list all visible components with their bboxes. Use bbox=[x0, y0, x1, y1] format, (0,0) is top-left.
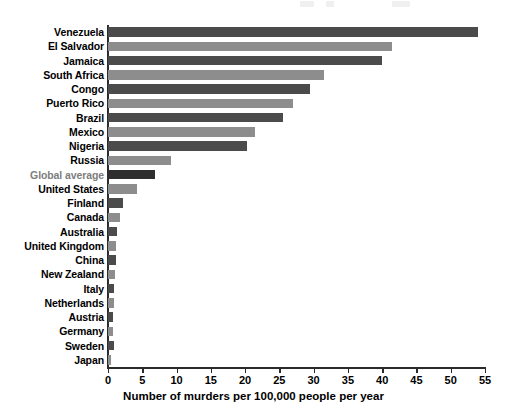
category-label: Finland bbox=[67, 196, 104, 210]
x-tick-label: 55 bbox=[465, 374, 505, 386]
bar bbox=[108, 27, 478, 37]
bar bbox=[108, 156, 171, 166]
bar bbox=[108, 198, 123, 208]
bar-row: China bbox=[0, 253, 507, 267]
bar bbox=[108, 255, 116, 265]
bar-row: Global average bbox=[0, 168, 507, 182]
x-tick bbox=[451, 367, 452, 373]
category-label: United Kingdom bbox=[24, 239, 104, 253]
bar-row: Australia bbox=[0, 225, 507, 239]
bar bbox=[108, 99, 293, 109]
category-label: Japan bbox=[74, 353, 104, 367]
category-label: Global average bbox=[30, 168, 104, 182]
bar-row: Netherlands bbox=[0, 296, 507, 310]
bar-row: Mexico bbox=[0, 125, 507, 139]
bar-row: Congo bbox=[0, 82, 507, 96]
bar bbox=[108, 355, 111, 365]
category-label: Italy bbox=[83, 282, 104, 296]
bar bbox=[108, 241, 116, 251]
category-label: Mexico bbox=[69, 125, 104, 139]
murder-rate-bar-chart: VenezuelaEl SalvadorJamaicaSouth AfricaC… bbox=[0, 0, 507, 412]
bar bbox=[108, 141, 247, 151]
x-axis-line bbox=[107, 367, 486, 369]
x-tick bbox=[314, 367, 315, 373]
bar bbox=[108, 127, 255, 137]
bar bbox=[108, 213, 120, 223]
category-label: Jamaica bbox=[63, 54, 104, 68]
bar-row: Sweden bbox=[0, 339, 507, 353]
bar bbox=[108, 341, 114, 351]
x-tick bbox=[177, 367, 178, 373]
category-label: Australia bbox=[60, 225, 104, 239]
bar bbox=[108, 298, 114, 308]
bar-row: Puerto Rico bbox=[0, 96, 507, 110]
category-label: Germany bbox=[59, 324, 104, 338]
bar bbox=[108, 284, 114, 294]
x-tick bbox=[142, 367, 143, 373]
bar-row: Jamaica bbox=[0, 54, 507, 68]
x-tick bbox=[211, 367, 212, 373]
bar bbox=[108, 170, 155, 180]
bar-row: United Kingdom bbox=[0, 239, 507, 253]
bar-row: Nigeria bbox=[0, 139, 507, 153]
x-tick bbox=[245, 367, 246, 373]
bar bbox=[108, 56, 382, 66]
bar-row: Finland bbox=[0, 196, 507, 210]
category-label: Brazil bbox=[76, 111, 104, 125]
category-label: United States bbox=[38, 182, 104, 196]
bar-row: Russia bbox=[0, 153, 507, 167]
category-label: Puerto Rico bbox=[46, 96, 104, 110]
category-label: Congo bbox=[71, 82, 104, 96]
x-tick bbox=[279, 367, 280, 373]
category-label: El Salvador bbox=[48, 39, 104, 53]
bar-row: Japan bbox=[0, 353, 507, 367]
bar bbox=[108, 42, 392, 52]
bar-row: Germany bbox=[0, 324, 507, 338]
bar-rows-container: VenezuelaEl SalvadorJamaicaSouth AfricaC… bbox=[0, 25, 507, 367]
bar-row: Brazil bbox=[0, 111, 507, 125]
bar-row: Canada bbox=[0, 210, 507, 224]
bar bbox=[108, 70, 324, 80]
scan-artifact bbox=[300, 1, 450, 7]
bar-row: Venezuela bbox=[0, 25, 507, 39]
bar bbox=[108, 227, 117, 237]
x-tick bbox=[108, 367, 109, 373]
category-label: Netherlands bbox=[44, 296, 104, 310]
bar bbox=[108, 184, 137, 194]
bar bbox=[108, 312, 113, 322]
bar-row: United States bbox=[0, 182, 507, 196]
x-tick bbox=[485, 367, 486, 373]
category-label: Sweden bbox=[65, 339, 104, 353]
category-label: New Zealand bbox=[41, 267, 104, 281]
category-label: Austria bbox=[69, 310, 104, 324]
x-axis-title: Number of murders per 100,000 people per… bbox=[0, 390, 507, 402]
category-label: China bbox=[75, 253, 104, 267]
bar-row: Austria bbox=[0, 310, 507, 324]
category-label: South Africa bbox=[43, 68, 104, 82]
category-label: Venezuela bbox=[54, 25, 104, 39]
x-tick bbox=[382, 367, 383, 373]
bar-row: El Salvador bbox=[0, 39, 507, 53]
bar bbox=[108, 84, 310, 94]
bar-row: South Africa bbox=[0, 68, 507, 82]
bar-row: Italy bbox=[0, 282, 507, 296]
bar bbox=[108, 327, 113, 337]
bar-row: New Zealand bbox=[0, 267, 507, 281]
category-label: Canada bbox=[67, 210, 104, 224]
x-tick bbox=[416, 367, 417, 373]
bar bbox=[108, 270, 115, 280]
category-label: Russia bbox=[70, 153, 104, 167]
bar bbox=[108, 113, 283, 123]
x-tick bbox=[348, 367, 349, 373]
category-label: Nigeria bbox=[69, 139, 104, 153]
